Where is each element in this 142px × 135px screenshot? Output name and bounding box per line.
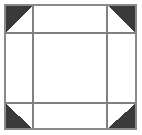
outer-square-border: [5, 5, 136, 129]
corner-triangle-grid-figure: [0, 0, 142, 135]
figure-container: [0, 0, 142, 135]
